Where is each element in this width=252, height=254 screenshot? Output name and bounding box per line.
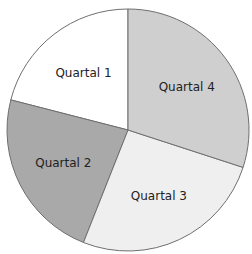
pie-label-4: Quartal 4 [159, 80, 215, 94]
pie-label-2: Quartal 2 [35, 156, 91, 170]
pie-label-3: Quartal 3 [131, 189, 187, 203]
pie-chart: Quartal 1Quartal 2Quartal 3Quartal 4 [0, 0, 252, 254]
pie-label-1: Quartal 1 [55, 66, 111, 80]
pie-slices [7, 9, 249, 251]
